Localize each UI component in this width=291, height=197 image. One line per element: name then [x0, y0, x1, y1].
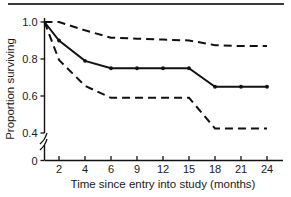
x-axis-title: Time since entry into study (months) [71, 178, 256, 190]
x-tick-label: 12 [157, 163, 169, 175]
data-point-marker [187, 66, 191, 70]
x-tick-label: 24 [261, 163, 273, 175]
x-axis-tick-labels: 24691215182124 [56, 163, 273, 175]
data-point-marker [135, 66, 139, 70]
x-tick-label: 4 [82, 163, 88, 175]
data-point-marker [57, 39, 61, 43]
x-tick-label: 21 [235, 163, 247, 175]
y-tick-label: 0.4 [22, 127, 37, 139]
x-tick-label: 18 [209, 163, 221, 175]
data-point-marker [265, 85, 269, 89]
x-tick-label: 6 [108, 163, 114, 175]
series-line-0 [45, 22, 268, 87]
y-tick-label: 0.8 [22, 53, 37, 65]
data-point-marker [109, 66, 113, 70]
data-point-marker [213, 85, 217, 89]
series-line-1 [45, 22, 268, 46]
y-tick-label: 0 [31, 155, 37, 167]
y-axis-break-icon [40, 133, 47, 150]
series-line-2 [45, 22, 268, 128]
data-point-marker [83, 59, 87, 63]
survival-plot-svg: 00.40.60.81.0 24691215182124 Time since … [0, 0, 291, 197]
y-tick-label: 1.0 [22, 16, 37, 28]
data-point-marker [161, 66, 165, 70]
y-axis-tick-labels: 00.40.60.81.0 [22, 16, 37, 167]
y-tick-label: 0.6 [22, 90, 37, 102]
x-tick-label: 9 [134, 163, 140, 175]
x-tick-label: 2 [56, 163, 62, 175]
data-series-layer [45, 22, 269, 128]
survival-chart-figure: 00.40.60.81.0 24691215182124 Time since … [0, 0, 291, 197]
x-tick-label: 15 [183, 163, 195, 175]
y-axis-title: Proportion surviving [4, 38, 16, 140]
data-point-marker [239, 85, 243, 89]
